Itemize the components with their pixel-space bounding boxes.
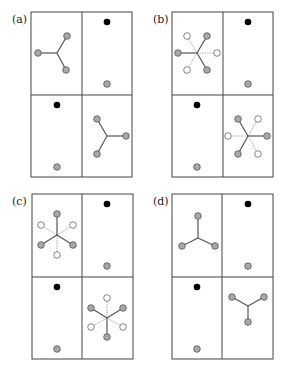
- gray-atom: [94, 151, 101, 158]
- gray-atom: [229, 294, 236, 301]
- gray-atom: [104, 263, 111, 270]
- cell-top_left: [175, 33, 221, 74]
- gray-atom: [264, 133, 271, 140]
- gray-atom: [35, 50, 42, 57]
- black-atom: [54, 284, 61, 291]
- gray-atom: [94, 116, 101, 123]
- panel-b: (b): [153, 12, 273, 177]
- gray-atom: [54, 346, 61, 353]
- gray-atom: [194, 346, 201, 353]
- gray-atom: [204, 67, 211, 74]
- gray-atom: [104, 334, 111, 341]
- gray-atom: [235, 116, 242, 123]
- gray-atom: [88, 305, 95, 312]
- white-atom: [184, 67, 191, 74]
- cell-top_left: [179, 213, 219, 250]
- white-atom: [255, 151, 262, 158]
- black-atom: [194, 284, 201, 291]
- white-atom: [184, 33, 191, 40]
- panel-label-b: (b): [153, 13, 169, 26]
- gray-atom: [64, 33, 71, 40]
- gray-atom: [54, 211, 61, 218]
- white-atom: [70, 222, 77, 229]
- white-atom: [54, 252, 61, 259]
- cell-top_right: [245, 201, 252, 270]
- black-atom: [104, 19, 111, 26]
- panel-c: (c): [12, 194, 133, 359]
- white-atom: [120, 324, 127, 331]
- black-atom: [194, 102, 201, 109]
- gray-atom: [245, 263, 252, 270]
- white-atom: [88, 324, 95, 331]
- gray-atom: [63, 67, 70, 74]
- black-atom: [104, 201, 111, 208]
- gray-atom: [120, 305, 127, 312]
- gray-atom: [261, 294, 268, 301]
- white-atom: [104, 295, 111, 302]
- gray-atom: [54, 164, 61, 171]
- cell-top_left: [38, 211, 77, 259]
- gray-atom: [194, 164, 201, 171]
- gray-atom: [212, 243, 219, 250]
- cell-bottom_right: [94, 116, 130, 158]
- black-atom: [54, 102, 61, 109]
- gray-atom: [195, 213, 202, 220]
- gray-atom: [245, 81, 252, 88]
- gray-atom: [104, 81, 111, 88]
- black-atom: [245, 201, 252, 208]
- gray-atom: [38, 242, 45, 249]
- cell-bottom_left: [194, 102, 201, 171]
- white-atom: [225, 133, 232, 140]
- cell-bottom_left: [54, 284, 61, 353]
- cell-bottom_right: [88, 295, 127, 341]
- black-atom: [245, 19, 252, 26]
- gray-atom: [179, 243, 186, 250]
- cell-top_right: [104, 19, 111, 88]
- panel-d: (d): [153, 194, 273, 359]
- gray-atom: [204, 33, 211, 40]
- white-atom: [214, 50, 221, 57]
- cell-top_left: [35, 33, 71, 74]
- gray-atom: [175, 50, 182, 57]
- cell-bottom_right: [225, 116, 271, 158]
- figure-canvas: (a) (b) (c) (d): [0, 0, 284, 369]
- panel-label-d: (d): [153, 195, 169, 208]
- white-atom: [38, 222, 45, 229]
- cell-bottom_right: [229, 294, 268, 326]
- panel-label-c: (c): [12, 195, 27, 208]
- gray-atom: [235, 151, 242, 158]
- cell-bottom_left: [194, 284, 201, 353]
- gray-atom: [70, 242, 77, 249]
- gray-atom: [245, 319, 252, 326]
- cell-bottom_left: [54, 102, 61, 171]
- white-atom: [255, 116, 262, 123]
- cell-top_right: [245, 19, 252, 88]
- cell-top_right: [104, 201, 111, 270]
- panel-a: (a): [12, 12, 132, 177]
- gray-atom: [123, 133, 130, 140]
- panel-label-a: (a): [12, 13, 27, 26]
